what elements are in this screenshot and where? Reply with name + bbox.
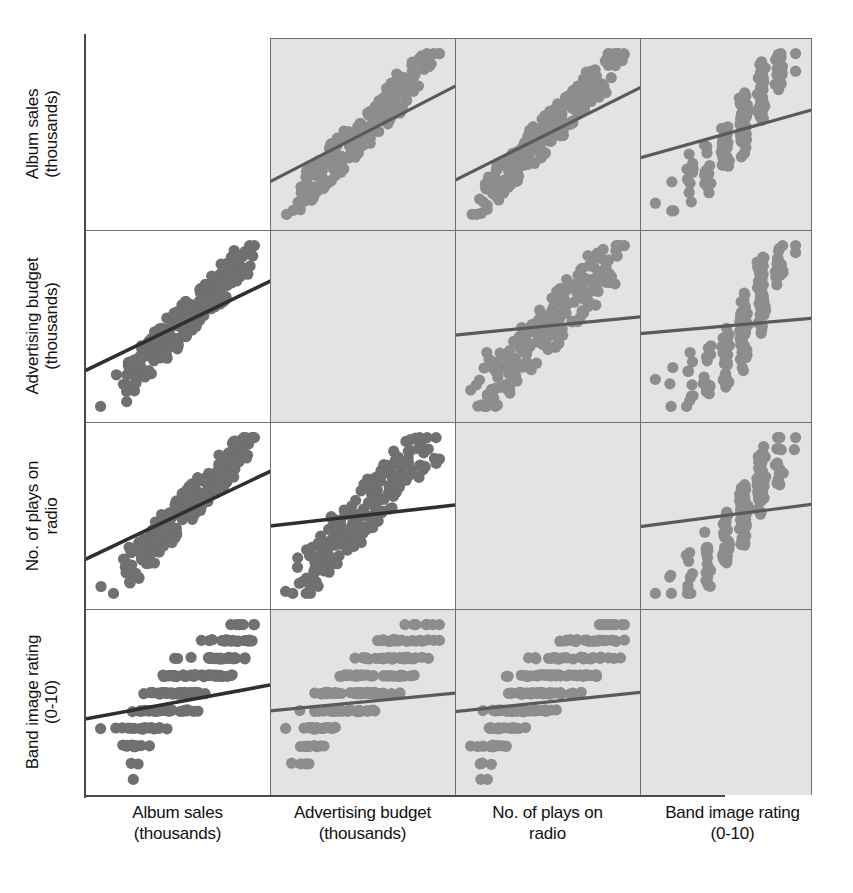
column-label-line1: Band image rating bbox=[640, 802, 825, 823]
column-label-line1: No. of plays on bbox=[455, 802, 640, 823]
panel-r1-c0 bbox=[85, 230, 270, 422]
panel-r0-c1 bbox=[270, 38, 455, 230]
row-label-line2: (thousands) bbox=[42, 257, 61, 394]
row-label-band-image-rating: Band image rating (0-10) bbox=[0, 609, 84, 795]
row-label-line2: radio bbox=[42, 460, 61, 570]
panel-r0-c3 bbox=[640, 38, 811, 230]
panel-r2-c3 bbox=[640, 422, 811, 609]
panel-plot bbox=[640, 38, 811, 230]
row-label-advertising-budget: Advertising budget (thousands) bbox=[0, 230, 84, 422]
column-label-line2: (0-10) bbox=[640, 823, 825, 844]
column-label-line2: (thousands) bbox=[270, 823, 455, 844]
row-label-radio-plays: No. of plays on radio bbox=[0, 422, 84, 609]
column-label-album-sales: Album sales (thousands) bbox=[85, 802, 270, 844]
grid-vline-right bbox=[811, 38, 812, 795]
column-label-line2: radio bbox=[455, 823, 640, 844]
row-label-line1: No. of plays on bbox=[23, 460, 42, 570]
panel-plot bbox=[455, 38, 640, 230]
panel-r2-c2 bbox=[455, 422, 640, 609]
row-label-line2: (thousands) bbox=[42, 89, 61, 179]
panel-r1-c2 bbox=[455, 230, 640, 422]
panel-r2-c0 bbox=[85, 422, 270, 609]
panel-r0-c2 bbox=[455, 38, 640, 230]
panel-plot bbox=[270, 38, 455, 230]
panel-r3-c1 bbox=[270, 609, 455, 795]
panel-r1-c3 bbox=[640, 230, 811, 422]
panel-plot bbox=[640, 422, 811, 609]
panel-r3-c2 bbox=[455, 609, 640, 795]
row-label-album-sales: Album sales (thousands) bbox=[0, 38, 84, 230]
column-label-line2: (thousands) bbox=[85, 823, 270, 844]
panel-r1-c1 bbox=[270, 230, 455, 422]
column-label-line1: Advertising budget bbox=[270, 802, 455, 823]
panel-r3-c0 bbox=[85, 609, 270, 795]
x-axis-spine bbox=[85, 795, 725, 797]
column-label-band-image-rating: Band image rating (0-10) bbox=[640, 802, 825, 844]
panel-plot bbox=[270, 609, 455, 795]
panel-plot bbox=[85, 230, 270, 422]
column-label-radio-plays: No. of plays on radio bbox=[455, 802, 640, 844]
scatterplot-matrix-figure: Album sales (thousands) Advertising budg… bbox=[0, 0, 853, 893]
column-label-advertising-budget: Advertising budget (thousands) bbox=[270, 802, 455, 844]
row-label-line1: Album sales bbox=[23, 89, 42, 179]
panel-r3-c3 bbox=[640, 609, 811, 795]
panel-plot bbox=[85, 422, 270, 609]
panel-plot bbox=[270, 422, 455, 609]
panel-r2-c1 bbox=[270, 422, 455, 609]
row-label-line2: (0-10) bbox=[42, 635, 61, 770]
panel-r0-c0 bbox=[85, 38, 270, 230]
panel-plot bbox=[640, 230, 811, 422]
row-label-line1: Advertising budget bbox=[23, 257, 42, 394]
row-label-line1: Band image rating bbox=[23, 635, 42, 770]
column-label-line1: Album sales bbox=[85, 802, 270, 823]
panel-plot bbox=[455, 609, 640, 795]
matrix-grid bbox=[85, 38, 812, 795]
panel-plot bbox=[455, 230, 640, 422]
panel-plot bbox=[85, 609, 270, 795]
